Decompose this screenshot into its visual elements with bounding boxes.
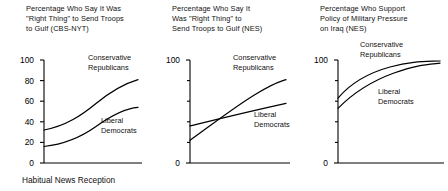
chart-panel-2: Percentage Who Say It Was "Right Thing" … (148, 0, 298, 191)
panel-3-ytick-label-0: 0 (300, 159, 328, 167)
panel-2-title: Percentage Who Say It Was "Right Thing" … (172, 4, 300, 35)
panel-3-title: Percentage Who Support Policy of Militar… (320, 4, 448, 35)
panel-1-ytick-label-0: 0 (6, 159, 34, 167)
panel-3-label-liberal-democrats: Liberal Democrats (378, 87, 440, 106)
panel-3-svg (332, 58, 446, 168)
panel-1-ytick-label-40: 40 (6, 118, 34, 126)
panel-1-ytick-label-100: 100 (6, 56, 34, 64)
panel-1-ytick-label-20: 20 (6, 138, 34, 146)
figure-three-panel-chart: Percentage Who Say It Was "Right Thing" … (0, 0, 448, 191)
panel-2-ytick-label-0: 0 (152, 159, 180, 167)
chart-panel-3: Percentage Who Support Policy of Militar… (298, 0, 448, 191)
panel-3-label-conservative-republicans: Conservative Republicans (360, 40, 432, 59)
panel-2-ytick-label-100: 100 (152, 56, 180, 64)
panel-1-plot-area (38, 58, 142, 168)
panel-3-ytick-label-100: 100 (300, 56, 328, 64)
panel-1-ytick-label-60: 60 (6, 97, 34, 105)
panel-1-svg (38, 58, 142, 168)
chart-panel-1: Percentage Who Say It Was "Right Thing" … (0, 0, 148, 191)
panel-1-title: Percentage Who Say It Was "Right Thing" … (26, 4, 150, 35)
panel-1-ytick-label-80: 80 (6, 77, 34, 85)
panel-1-x-axis-label: Habitual News Reception (22, 176, 115, 185)
panel-3-plot-area (332, 58, 446, 168)
panel-2-label-conservative-republicans: Conservative Republicans (233, 53, 305, 72)
